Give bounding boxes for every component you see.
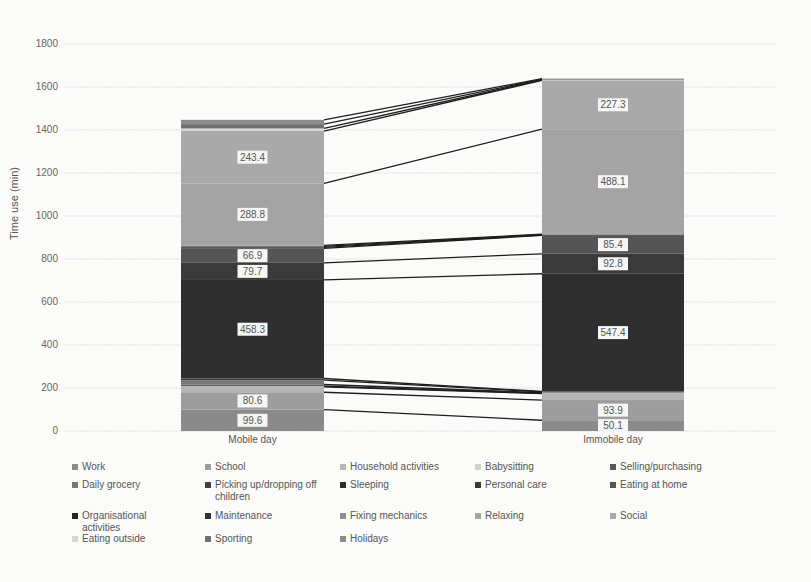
svg-text:488.1: 488.1	[600, 176, 625, 187]
legend-item: Personal care	[475, 479, 547, 491]
legend-label: Sleeping	[350, 479, 389, 491]
svg-text:79.7: 79.7	[243, 266, 263, 277]
legend-swatch-icon	[205, 482, 211, 488]
data-label: 92.8	[598, 257, 628, 270]
legend-swatch-icon	[205, 513, 211, 519]
svg-text:80.6: 80.6	[243, 395, 263, 406]
legend-swatch-icon	[610, 464, 616, 470]
legend-item: Holidays	[340, 533, 388, 545]
data-label: 227.3	[598, 98, 628, 111]
legend-swatch-icon	[72, 482, 78, 488]
connector-line	[324, 80, 542, 131]
bar-segment-organisational-activities	[542, 235, 684, 236]
legend-swatch-icon	[610, 482, 616, 488]
legend-item: Sleeping	[340, 479, 389, 491]
data-label: 488.1	[598, 175, 628, 188]
connector-line	[324, 274, 542, 280]
legend-item: Relaxing	[475, 510, 524, 522]
legend-item: Work	[72, 461, 105, 473]
legend-item: Eating at home	[610, 479, 687, 491]
y-tick-label: 1800	[0, 38, 58, 49]
svg-text:243.4: 243.4	[240, 152, 265, 163]
bar-segment-selling-purchasing	[542, 393, 684, 394]
bar-segment-babysitting	[181, 386, 324, 387]
bar-segment-eating-outside	[542, 80, 684, 81]
svg-text:458.3: 458.3	[240, 324, 265, 335]
stacked-bar-chart: 99.680.6458.379.766.9288.8243.450.193.95…	[0, 0, 811, 450]
svg-text:227.3: 227.3	[600, 99, 625, 110]
legend-label: Household activities	[350, 461, 439, 473]
bar-segment-daily-grocery	[542, 392, 684, 393]
legend-swatch-icon	[72, 464, 78, 470]
data-label: 80.6	[238, 394, 268, 407]
connector-line	[324, 79, 542, 120]
legend-item: Sporting	[205, 533, 252, 545]
x-tick-label: Mobile day	[173, 434, 333, 445]
svg-text:99.6: 99.6	[243, 415, 263, 426]
bar-segment-maintenance	[181, 246, 324, 247]
data-label: 243.4	[238, 151, 268, 164]
legend-swatch-icon	[340, 464, 346, 470]
connector-line	[324, 79, 542, 124]
legend: WorkSchoolHousehold activitiesBabysittin…	[0, 455, 811, 575]
y-tick-label: 1400	[0, 124, 58, 135]
legend-swatch-icon	[475, 513, 481, 519]
legend-item: Daily grocery	[72, 479, 140, 491]
bar-segment-babysitting	[542, 393, 684, 394]
legend-swatch-icon	[72, 536, 78, 542]
legend-item: Eating outside	[72, 533, 145, 545]
legend-label: School	[215, 461, 246, 473]
bar-segment-selling-purchasing	[181, 385, 324, 387]
bar-segment-holidays	[542, 79, 684, 80]
bar-segment-picking-up-dropping-off-children	[542, 391, 684, 392]
legend-item: Household activities	[340, 461, 439, 473]
legend-label: Babysitting	[485, 461, 534, 473]
data-label: 50.1	[598, 419, 628, 432]
legend-item: Picking up/dropping off children	[205, 479, 320, 503]
legend-swatch-icon	[610, 513, 616, 519]
y-tick-label: 1200	[0, 167, 58, 178]
data-label: 66.9	[238, 249, 268, 262]
svg-text:66.9: 66.9	[243, 250, 263, 261]
bar-segment-fixing-mechanics	[181, 245, 324, 246]
data-label: 99.6	[238, 414, 268, 427]
legend-swatch-icon	[205, 536, 211, 542]
legend-label: Personal care	[485, 479, 547, 491]
svg-text:92.8: 92.8	[603, 258, 623, 269]
legend-item: Selling/purchasing	[610, 461, 702, 473]
data-label: 547.4	[598, 326, 628, 339]
data-label: 288.8	[238, 208, 268, 221]
bar-segment-picking-up-dropping-off-children	[181, 378, 324, 380]
legend-swatch-icon	[340, 536, 346, 542]
data-label: 79.7	[238, 265, 268, 278]
y-tick-label: 1600	[0, 81, 58, 92]
legend-label: Fixing mechanics	[350, 510, 427, 522]
bar-segment-fixing-mechanics	[542, 234, 684, 235]
legend-label: Social	[620, 510, 647, 522]
legend-swatch-icon	[475, 482, 481, 488]
connector-line	[324, 410, 542, 421]
y-tick-label: 600	[0, 296, 58, 307]
y-tick-label: 400	[0, 339, 58, 350]
connector-line	[324, 129, 542, 183]
legend-label: Maintenance	[215, 510, 272, 522]
connector-line	[324, 254, 542, 263]
legend-item: Social	[610, 510, 647, 522]
legend-item: Organisational activities	[72, 510, 187, 534]
bar-segment-household-activities	[542, 394, 684, 400]
legend-label: Sporting	[215, 533, 252, 545]
plot-area: 99.680.6458.379.766.9288.8243.450.193.95…	[0, 0, 811, 450]
legend-label: Eating outside	[82, 533, 145, 545]
y-axis-label: Time use (min)	[8, 167, 20, 240]
legend-label: Organisational activities	[82, 510, 187, 534]
bar-segment-daily-grocery	[181, 380, 324, 384]
legend-item: Babysitting	[475, 461, 534, 473]
legend-label: Picking up/dropping off children	[215, 479, 320, 503]
bar-segment-maintenance	[542, 235, 684, 236]
legend-label: Holidays	[350, 533, 388, 545]
legend-item: Fixing mechanics	[340, 510, 427, 522]
connector-line	[324, 392, 542, 400]
bar-segment-sporting	[542, 79, 684, 80]
legend-label: Work	[82, 461, 105, 473]
data-label: 85.4	[598, 238, 628, 251]
